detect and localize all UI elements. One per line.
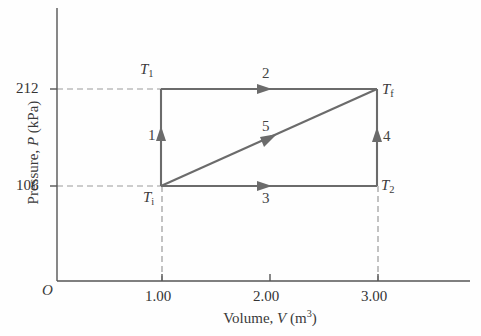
path-4-arrowhead — [372, 127, 382, 142]
state-label-Tf-subscript: f — [390, 88, 394, 99]
y-axis-title-symbol: P — [25, 137, 41, 146]
axes — [50, 8, 470, 281]
x-axis-tick-label-3: 3.00 — [361, 289, 387, 304]
pv-diagram-figure: 212 106 1.00 2.00 3.00 O Pressure, P (kP… — [0, 0, 481, 336]
process-label-3: 3 — [262, 191, 270, 206]
process-label-5: 5 — [262, 119, 270, 134]
process-path-5 — [161, 89, 377, 186]
state-label-T2-subscript: 2 — [389, 184, 394, 195]
path-2-arrowhead — [257, 84, 272, 94]
state-label-Ti: Ti — [143, 190, 154, 205]
path-5-arrowhead — [260, 134, 277, 147]
process-label-4: 4 — [383, 129, 391, 144]
y-axis-title-unit: (kPa) — [25, 101, 41, 137]
state-label-Ti-subscript: i — [151, 196, 154, 207]
x-axis-title-unit-open: (m — [286, 310, 306, 326]
process-label-1: 1 — [148, 128, 156, 143]
process-label-2: 2 — [262, 66, 270, 81]
y-axis-title-prefix: Pressure, — [25, 146, 41, 204]
process-path-4 — [372, 89, 382, 186]
x-axis-title: Volume, V (m3) — [150, 311, 390, 326]
x-axis-title-symbol: V — [277, 310, 286, 326]
x-axis-tick-label-1: 1.00 — [145, 289, 171, 304]
x-axis-title-prefix: Volume, — [223, 310, 277, 326]
state-label-T1-subscript: 1 — [148, 68, 153, 79]
state-label-T2: T2 — [381, 178, 395, 193]
process-path-1 — [156, 89, 166, 186]
state-label-T1: T1 — [140, 62, 154, 77]
state-label-Tf: Tf — [382, 82, 394, 97]
y-axis-title: Pressure, P (kPa) — [26, 58, 41, 248]
path-1-arrowhead — [156, 126, 166, 141]
process-path-2 — [161, 84, 377, 94]
x-axis-title-unit-close: ) — [312, 310, 317, 326]
x-axis-tick-label-2: 2.00 — [253, 289, 279, 304]
origin-label: O — [42, 283, 53, 298]
pv-diagram-canvas — [0, 0, 481, 336]
